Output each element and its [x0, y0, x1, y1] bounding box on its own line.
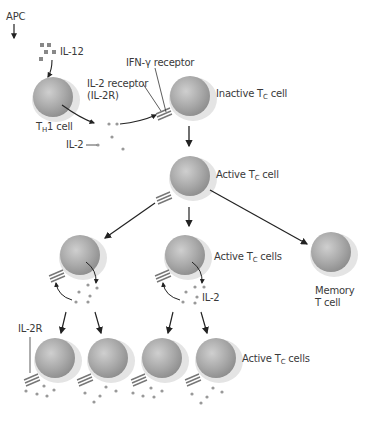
il2-molecules-left: [74, 283, 98, 303]
active-tc-cell-mid-left: [59, 235, 107, 280]
ifn-gamma-receptor-label: IFN-γ receptor: [126, 57, 194, 69]
active-tc-cells-mid-label: Active TC cells: [214, 251, 282, 266]
branch-arrow-memory: [210, 190, 307, 244]
receptor-mid-left: [49, 270, 65, 282]
memory-label-line2: T cell: [315, 297, 340, 309]
receptor-mid-center: [155, 270, 171, 282]
active-tc-receptor: [156, 192, 172, 204]
receptor-bottom-2: [77, 374, 93, 386]
il2r-bottom-label: IL-2R: [18, 323, 42, 335]
active-tc-cell-bottom-1: [34, 338, 82, 383]
receptor-bottom-1: [24, 374, 40, 386]
inactive-tc-label: Inactive TC cell: [216, 88, 287, 103]
th1-cell-label: TH1 cell: [36, 121, 73, 136]
il2-molecules: [96, 122, 124, 150]
active-tc-cell-bottom-2: [87, 338, 135, 383]
active-tc-cell-mid-center: [164, 235, 212, 280]
receptor-bottom-4: [185, 374, 201, 386]
active-tc-cell: [169, 156, 217, 201]
ifn-receptor-pointer: [155, 68, 166, 112]
autocrine-arrow-mid-in: [163, 283, 180, 300]
il12-molecules: [39, 43, 56, 61]
arrow-bottom-2: [95, 312, 101, 333]
arrow-bottom-3: [168, 312, 173, 333]
memory-label-line1: Memory: [315, 285, 354, 297]
memory-t-cell: [310, 232, 358, 277]
il2-receptor-abbrev: (IL-2R): [87, 90, 119, 102]
il12-arrow: [48, 60, 52, 77]
receptor-bottom-3: [131, 374, 147, 386]
il2-to-receptor-arrow: [120, 115, 156, 124]
arrow-bottom-4: [201, 312, 207, 333]
arrow-bottom-1: [61, 312, 66, 333]
inactive-tc-receptor: [156, 108, 172, 120]
th1-cell: [32, 77, 80, 122]
active-tc-label: Active TC cell: [216, 169, 279, 184]
branch-arrow-left: [105, 203, 155, 238]
active-tc-cells-bottom-label: Active TC cells: [242, 353, 310, 368]
il2-mid-label: IL-2: [202, 292, 220, 304]
active-tc-cell-bottom-4: [195, 338, 243, 383]
autocrine-arrow-left-in: [56, 283, 72, 300]
inactive-tc-cell: [169, 76, 217, 121]
active-tc-cell-bottom-3: [141, 338, 189, 383]
il2-label: IL-2: [66, 139, 84, 151]
apc-label: APC: [6, 11, 25, 23]
il12-label: IL-12: [60, 46, 84, 58]
il2-molecules-bottom: [24, 384, 223, 404]
il2-receptor-label: IL-2 receptor: [87, 78, 148, 90]
